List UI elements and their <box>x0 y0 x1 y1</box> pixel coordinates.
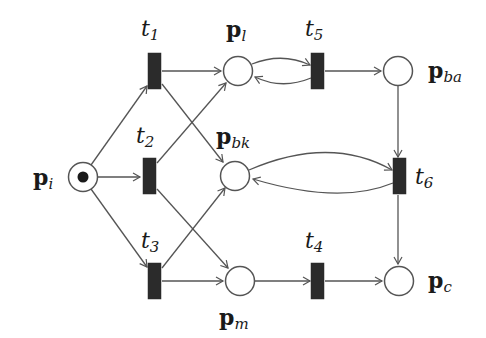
label-base: t <box>141 16 150 41</box>
place-pm[interactable] <box>226 267 255 296</box>
label-pi: pi <box>33 166 53 192</box>
petri-net-diagram: t1 t2 t3 t4 t5 t6 pi pl pbk pm pba pc <box>0 0 486 338</box>
label-base: t <box>136 123 145 148</box>
token-icon <box>78 172 89 183</box>
label-sub: m <box>234 315 248 333</box>
label-sub: bk <box>231 134 250 152</box>
label-pl: pl <box>226 18 246 44</box>
transitions <box>143 53 406 299</box>
place-pc[interactable] <box>385 267 414 296</box>
label-base: t <box>141 228 150 253</box>
transition-t1[interactable] <box>148 53 161 89</box>
place-pbk[interactable] <box>221 162 250 191</box>
transition-t2[interactable] <box>143 158 156 194</box>
arc-t5-pl <box>255 77 311 84</box>
label-sub: 5 <box>314 26 324 44</box>
label-t1: t1 <box>141 18 159 43</box>
label-sub: c <box>443 278 451 296</box>
label-t6: t6 <box>415 166 433 191</box>
label-sub: i <box>48 175 53 193</box>
arc-pbk-t6 <box>249 153 392 171</box>
petri-net-graphic <box>0 0 486 338</box>
place-pl[interactable] <box>224 57 253 86</box>
label-sub: 6 <box>424 174 434 192</box>
label-t4: t4 <box>305 230 323 255</box>
arc-t1-pbk <box>162 84 223 162</box>
transition-t3[interactable] <box>148 263 161 299</box>
label-t2: t2 <box>136 125 154 150</box>
arc-t3-pbk <box>162 188 225 268</box>
place-pba[interactable] <box>384 57 413 86</box>
label-base: p <box>219 304 234 330</box>
label-base: p <box>428 57 443 83</box>
label-sub: 3 <box>150 238 160 256</box>
arc-pl-t5 <box>252 58 310 65</box>
label-sub: l <box>241 27 246 45</box>
label-sub: 2 <box>145 133 155 151</box>
label-base: p <box>226 16 241 42</box>
label-base: p <box>428 267 443 293</box>
transition-t4[interactable] <box>311 263 324 299</box>
arc-t6-pbk <box>253 179 393 193</box>
label-base: t <box>415 164 424 189</box>
arc-pi-t3 <box>91 189 147 267</box>
transition-t6[interactable] <box>393 158 406 194</box>
label-base: p <box>216 123 231 149</box>
label-base: t <box>305 228 314 253</box>
label-pm: pm <box>219 306 249 332</box>
label-base: p <box>33 164 48 190</box>
label-sub: 1 <box>150 26 160 44</box>
label-pc: pc <box>428 269 452 295</box>
label-t3: t3 <box>141 230 159 255</box>
label-pba: pba <box>428 59 462 85</box>
label-sub: 4 <box>314 238 324 256</box>
label-pbk: pbk <box>216 125 250 151</box>
label-sub: ba <box>443 68 462 86</box>
places <box>69 57 414 296</box>
label-base: t <box>305 16 314 41</box>
transition-t5[interactable] <box>311 53 324 89</box>
label-t5: t5 <box>305 18 323 43</box>
